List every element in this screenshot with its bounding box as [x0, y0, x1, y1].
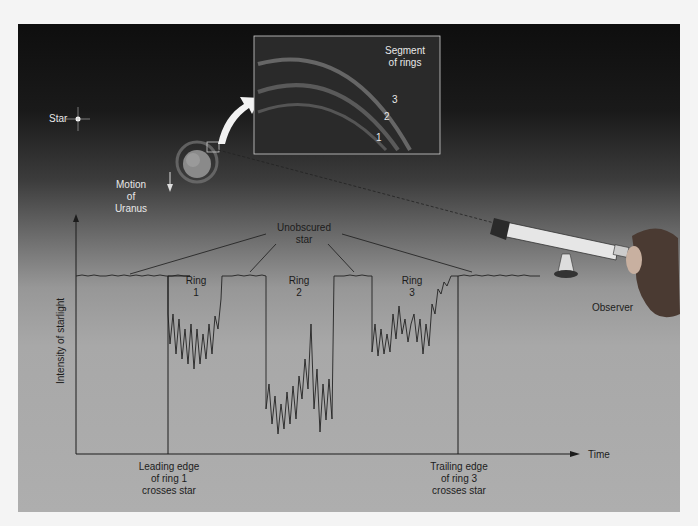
observer-label: Observer — [592, 302, 634, 313]
leading-edge-caption: Leading edge of ring 1 crosses star — [139, 461, 200, 496]
ring-2-label: Ring 2 — [289, 275, 310, 298]
svg-text:star: star — [296, 234, 313, 245]
svg-text:of ring 1: of ring 1 — [151, 473, 188, 484]
unobscured-label: Unobscured star — [277, 222, 331, 245]
svg-text:2: 2 — [384, 111, 390, 122]
svg-text:1: 1 — [193, 287, 199, 298]
svg-text:Ring: Ring — [402, 275, 423, 286]
svg-text:Ring: Ring — [186, 275, 207, 286]
trailing-edge-caption: Trailing edge of ring 3 crosses star — [430, 461, 488, 496]
svg-text:of rings: of rings — [389, 57, 422, 68]
star-icon — [66, 107, 90, 131]
svg-text:Leading edge: Leading edge — [139, 461, 200, 472]
svg-text:crosses star: crosses star — [432, 485, 487, 496]
ring-3-label: Ring 3 — [402, 275, 423, 298]
svg-text:crosses star: crosses star — [142, 485, 197, 496]
svg-text:of ring 3: of ring 3 — [441, 473, 478, 484]
light-curve — [76, 275, 540, 434]
ring-1-label: Ring 1 — [186, 275, 207, 298]
x-axis-label: Time — [588, 449, 610, 460]
svg-text:1: 1 — [376, 132, 382, 143]
ring-segment-inset: Segment of rings 3 2 1 — [254, 36, 440, 154]
observer-figure — [626, 228, 680, 317]
svg-text:Unobscured: Unobscured — [277, 222, 331, 233]
down-arrow-icon — [167, 172, 173, 192]
svg-text:Motion: Motion — [116, 179, 146, 190]
svg-text:3: 3 — [392, 94, 398, 105]
svg-text:Ring: Ring — [289, 275, 310, 286]
svg-text:Segment: Segment — [385, 45, 425, 56]
diagram-panel: Star Motion of Uranus Segment of rin — [18, 24, 680, 512]
star-label: Star — [49, 113, 68, 124]
svg-text:2: 2 — [296, 287, 302, 298]
svg-text:Uranus: Uranus — [115, 203, 147, 214]
line-of-sight — [218, 150, 498, 224]
svg-text:Trailing edge: Trailing edge — [430, 461, 488, 472]
y-axis-label: Intensity of starlight — [55, 298, 66, 384]
graph-axes — [73, 214, 580, 457]
uranus-planet — [177, 142, 219, 182]
telescope — [490, 218, 629, 278]
svg-text:3: 3 — [409, 287, 415, 298]
svg-text:of: of — [127, 191, 136, 202]
motion-label: Motion of Uranus — [115, 179, 147, 214]
